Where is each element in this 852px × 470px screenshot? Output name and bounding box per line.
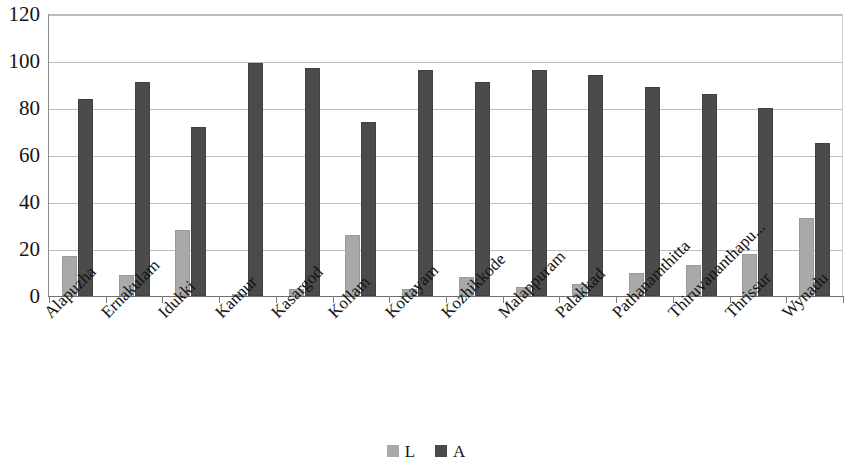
x-axis-tick (843, 296, 844, 303)
bar-group (49, 14, 106, 296)
y-axis-tick-label: 80 (19, 98, 40, 119)
bar-a[interactable] (361, 122, 376, 296)
bar-a[interactable] (588, 75, 603, 296)
legend-swatch-light-icon (387, 445, 399, 457)
bar-group (389, 14, 446, 296)
legend-label: A (453, 443, 465, 460)
chart-legend: LA (0, 438, 852, 464)
y-axis-tick-label: 40 (19, 192, 40, 213)
legend-item-a[interactable]: A (435, 443, 465, 460)
legend-label: L (405, 443, 415, 460)
bar-a[interactable] (248, 63, 263, 296)
y-axis: 020406080100120 (0, 0, 44, 310)
x-axis-labels: AlapuzhaErnakulamIdukkiKannurKasargodKol… (0, 303, 852, 423)
bar-group (106, 14, 163, 296)
bar-group (162, 14, 219, 296)
legend-item-l[interactable]: L (387, 443, 415, 460)
bar-group (219, 14, 276, 296)
bar-group (786, 14, 843, 296)
bar-group (333, 14, 390, 296)
y-axis-tick-label: 120 (9, 4, 41, 25)
y-axis-tick-label: 100 (9, 51, 41, 72)
bar-group (276, 14, 333, 296)
y-axis-tick-label: 20 (19, 239, 40, 260)
bar-a[interactable] (191, 127, 206, 296)
bar-chart: 020406080100120 AlapuzhaErnakulamIdukkiK… (0, 0, 852, 470)
bar-group (559, 14, 616, 296)
y-axis-tick-label: 60 (19, 145, 40, 166)
legend-swatch-dark-icon (435, 445, 447, 457)
